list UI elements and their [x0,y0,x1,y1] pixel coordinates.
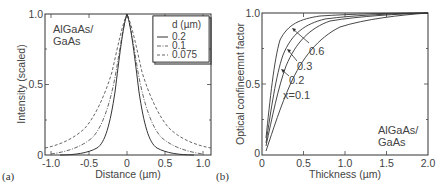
material-annotation-line1: AlGaAs/ [53,23,94,35]
material-annotation-line2: GaAs [378,136,406,148]
xtick-label: 1.0 [196,157,211,169]
curve-label: 0.2 [289,74,304,86]
xtick-label: -1.0 [42,157,60,169]
ytick-label: 1.0 [245,7,260,19]
x-axis-label: Distance (µm) [95,168,161,180]
figure: -1.0 -0.5 0 0.5 1.0 0 0.5 1.0 Distance (… [0,0,443,192]
xtick-label: 1.5 [379,157,394,169]
legend-entry: 0.075 [172,49,197,60]
panel-b: 0 0.5 1.0 1.5 2.0 0 0.5 1.0 Thickness (µ… [216,7,435,183]
xtick-label: 2.0 [421,157,436,169]
panel-label-a: (a) [2,170,15,183]
material-annotation-line2: GaAs [53,35,81,47]
material-annotation-line1: AlGaAs/ [378,124,419,136]
ytick-label: 0 [37,149,43,161]
legend: d (µm) 0.2 0.1 0.075 [153,16,211,64]
panel-label-b: (b) [216,170,229,183]
ytick-label: 0.5 [245,78,260,90]
ytick-label: 1.0 [28,8,43,20]
x-axis-label: Thickness (µm) [309,168,381,180]
curve-label: 0.6 [309,45,324,57]
ytick-label: 0.5 [28,78,43,90]
curve-label: 0.3 [297,60,312,72]
legend-title: d (µm) [172,19,201,30]
curve-label: x=0.1 [283,89,310,101]
y-axis-label: Intensity (scaled) [15,44,27,123]
ytick-label: 0 [254,147,260,159]
y-axis-label: Optical confineemnt factor [234,23,246,145]
panel-a: -1.0 -0.5 0 0.5 1.0 0 0.5 1.0 Distance (… [2,8,211,183]
